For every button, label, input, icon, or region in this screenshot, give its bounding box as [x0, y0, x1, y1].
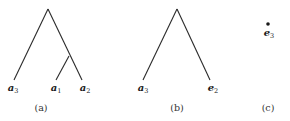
edge-b-root-e2	[177, 9, 210, 80]
edge-b-root-a3	[143, 9, 177, 80]
leaf-sub: 2	[214, 87, 218, 95]
caption-a: (a)	[34, 103, 47, 113]
node-c-e3-dot	[266, 22, 270, 26]
leaf-label-a-a3: a3	[8, 83, 19, 95]
leaf-sub: 3	[144, 87, 148, 95]
caption-c: (c)	[262, 103, 275, 113]
leaf-sub: 1	[57, 87, 61, 95]
edge-a-root-a3	[14, 9, 48, 80]
edge-a-root-a2	[48, 9, 82, 80]
leaf-label-b-a3: a3	[138, 83, 149, 95]
leaf-label-b-e2: e2	[208, 83, 219, 95]
leaf-sub: 3	[14, 87, 18, 95]
tree-c-nodes	[266, 22, 270, 26]
leaf-label-c-e3: e3	[264, 28, 275, 40]
leaf-label-a-a1: a1	[51, 83, 62, 95]
caption-b: (b)	[170, 103, 184, 113]
tree-a-edges	[14, 9, 82, 80]
tree-diagram-figure: a3 a1 a2 (a) a3 e2 (b) e3 (c)	[0, 0, 290, 121]
tree-b-edges	[143, 9, 210, 80]
edge-a-branch-a1	[56, 56, 69, 80]
leaf-label-a-a2: a2	[80, 83, 91, 95]
leaf-sub: 2	[86, 87, 90, 95]
leaf-sub: 3	[270, 32, 274, 40]
